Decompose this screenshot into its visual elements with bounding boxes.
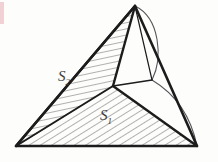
segment-interior-to-arc-joint — [113, 80, 152, 86]
geometry-figure: S2 S1 — [0, 0, 218, 162]
region-label-s2: S2 — [58, 68, 70, 87]
region-label-s2-base: S — [58, 68, 66, 84]
segment-apex-to-arc-joint — [135, 6, 152, 80]
construction-arc-upper — [135, 6, 158, 80]
region-label-s1-subscript: 1 — [108, 116, 113, 126]
region-label-s1: S1 — [100, 107, 112, 126]
region-label-s1-base: S — [100, 107, 108, 123]
region-label-s2-subscript: 2 — [66, 77, 71, 87]
geometry-canvas — [0, 0, 218, 162]
